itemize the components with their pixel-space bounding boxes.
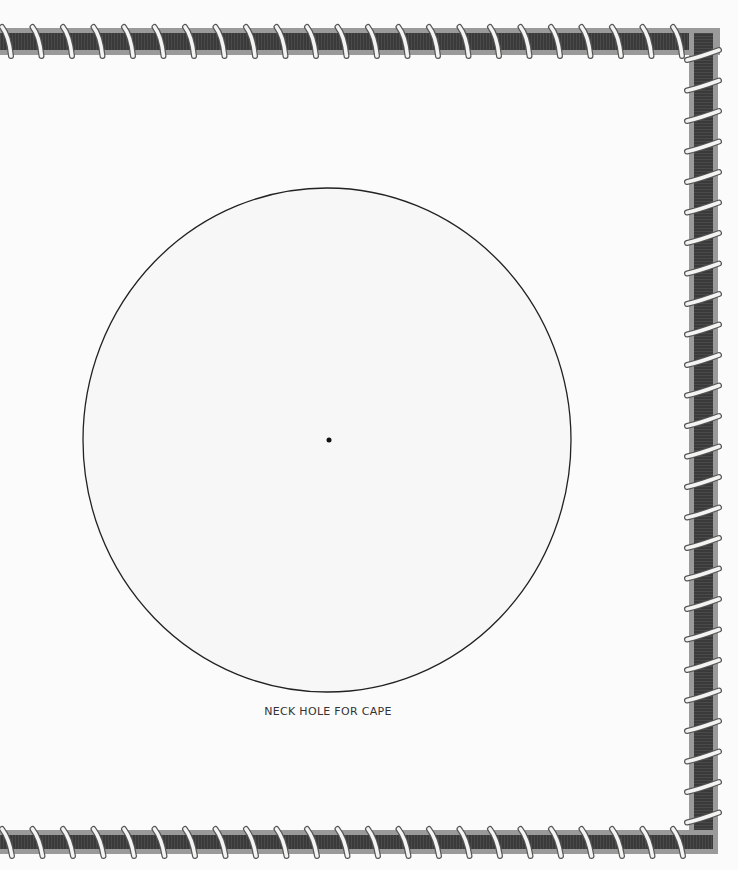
- bottom-border-band: [0, 830, 718, 854]
- neck-hole-caption: NECK HOLE FOR CAPE: [0, 705, 656, 718]
- rope-border-frame: [0, 0, 738, 870]
- center-mark-dot: [327, 438, 332, 443]
- template-page: NECK HOLE FOR CAPE: [0, 0, 738, 870]
